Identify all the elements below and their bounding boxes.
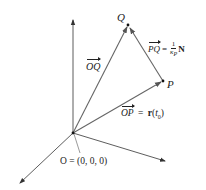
point-Q — [127, 24, 130, 27]
origin-leader-line — [74, 134, 80, 153]
label-vector-PQ: PQ = 1 κP N — [148, 41, 185, 58]
equals-sign: = — [138, 108, 143, 118]
label-vector-OP: OP = r(t0) — [121, 109, 164, 120]
label-point-P: P — [167, 79, 174, 90]
label-point-Q: Q — [117, 12, 125, 23]
point-P — [162, 80, 165, 83]
vector-OP-name: OP — [121, 109, 134, 119]
position-function-r: r — [148, 108, 152, 118]
label-vector-OQ: OQ — [86, 62, 100, 72]
fraction-one-over-kappa: 1 κP — [170, 41, 177, 58]
equals-sign: = — [162, 45, 167, 54]
label-origin-coords: O = (0, 0, 0) — [60, 157, 107, 167]
vector-PQ-name: PQ — [148, 45, 160, 54]
normal-vector-N: N — [178, 45, 185, 54]
fraction-denominator: κP — [170, 49, 177, 58]
point-O — [72, 132, 75, 135]
vector-OQ-name: OQ — [86, 62, 100, 72]
param-subscript: 0 — [158, 114, 161, 120]
